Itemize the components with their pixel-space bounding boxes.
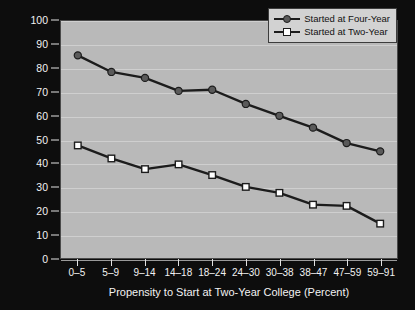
legend-item-two-year[interactable]: Started at Two-Year bbox=[274, 25, 390, 38]
y-tick-mark bbox=[51, 139, 59, 140]
y-tick-mark bbox=[51, 115, 59, 116]
data-point-marker-square[interactable] bbox=[142, 166, 149, 173]
series-line bbox=[78, 55, 380, 151]
x-tick-mark bbox=[381, 259, 382, 266]
y-tick-label: 10 bbox=[36, 230, 48, 241]
data-point-marker-square[interactable] bbox=[209, 172, 216, 179]
y-tick-label: 80 bbox=[36, 63, 48, 74]
data-point-marker-circle[interactable] bbox=[141, 74, 148, 81]
x-tick-mark bbox=[111, 259, 112, 266]
y-tick-mark bbox=[51, 20, 59, 21]
data-point-marker-square[interactable] bbox=[75, 142, 82, 149]
x-tick-label: 24–30 bbox=[232, 268, 260, 278]
data-point-marker-circle[interactable] bbox=[377, 148, 384, 155]
y-tick-label: 100 bbox=[30, 15, 48, 26]
y-tick-label: 50 bbox=[36, 134, 48, 145]
data-point-marker-circle[interactable] bbox=[276, 112, 283, 119]
data-point-marker-square[interactable] bbox=[276, 190, 283, 197]
y-tick-mark bbox=[51, 235, 59, 236]
data-point-marker-circle[interactable] bbox=[74, 52, 81, 59]
y-tick-mark bbox=[51, 43, 59, 44]
x-tick-mark bbox=[280, 259, 281, 266]
data-point-marker-square[interactable] bbox=[243, 184, 250, 191]
x-tick-mark bbox=[246, 259, 247, 266]
x-tick-label: 47–59 bbox=[333, 268, 361, 278]
legend: Started at Four-Year Started at Two-Year bbox=[268, 8, 397, 43]
series-line bbox=[78, 145, 380, 223]
y-tick-label: 20 bbox=[36, 206, 48, 217]
x-tick-label: 30–38 bbox=[266, 268, 294, 278]
y-tick-mark bbox=[51, 91, 59, 92]
data-point-marker-circle[interactable] bbox=[242, 100, 249, 107]
y-tick-mark bbox=[51, 67, 59, 68]
data-point-marker-square[interactable] bbox=[175, 161, 182, 168]
x-tick-mark bbox=[145, 259, 146, 266]
data-point-marker-circle[interactable] bbox=[108, 68, 115, 75]
y-tick-mark bbox=[51, 259, 59, 260]
y-tick-label: 60 bbox=[36, 110, 48, 121]
plot-area bbox=[60, 20, 398, 259]
x-tick-mark bbox=[178, 259, 179, 266]
y-tick-mark bbox=[51, 163, 59, 164]
x-tick-label: 9–14 bbox=[133, 268, 155, 278]
x-tick-label: 38–47 bbox=[300, 268, 328, 278]
data-point-marker-square[interactable] bbox=[310, 201, 317, 208]
x-tick-mark bbox=[212, 259, 213, 266]
x-tick-label: 0–5 bbox=[69, 268, 86, 278]
x-tick-mark bbox=[314, 259, 315, 266]
data-point-marker-square[interactable] bbox=[377, 220, 384, 227]
open-square-marker-icon bbox=[274, 26, 300, 37]
data-point-marker-circle[interactable] bbox=[175, 87, 182, 94]
y-axis: 0102030405060708090100 bbox=[0, 20, 60, 259]
legend-label-two-year: Started at Two-Year bbox=[304, 27, 387, 37]
legend-item-four-year[interactable]: Started at Four-Year bbox=[274, 12, 390, 25]
x-axis-title: Propensity to Start at Two-Year College … bbox=[60, 286, 398, 298]
y-tick-label: 70 bbox=[36, 86, 48, 97]
y-tick-mark bbox=[51, 211, 59, 212]
data-point-marker-circle[interactable] bbox=[209, 86, 216, 93]
x-tick-label: 18–24 bbox=[198, 268, 226, 278]
y-tick-label: 90 bbox=[36, 39, 48, 50]
x-tick-mark bbox=[77, 259, 78, 266]
x-tick-label: 14–18 bbox=[164, 268, 192, 278]
y-tick-label: 40 bbox=[36, 158, 48, 169]
y-tick-label: 0 bbox=[42, 254, 48, 265]
filled-circle-marker-icon bbox=[274, 13, 300, 24]
x-tick-mark bbox=[347, 259, 348, 266]
data-point-marker-circle[interactable] bbox=[309, 124, 316, 131]
chart-figure: Bachelor's Degree Attainment Rate (Perce… bbox=[0, 0, 415, 310]
data-point-marker-square[interactable] bbox=[108, 155, 115, 162]
x-axis: 0–55–99–1414–1818–2424–3030–3838–4747–59… bbox=[60, 259, 398, 310]
x-tick-label: 59–91 bbox=[367, 268, 395, 278]
data-point-marker-circle[interactable] bbox=[343, 139, 350, 146]
x-tick-label: 5–9 bbox=[102, 268, 119, 278]
data-point-marker-square[interactable] bbox=[343, 203, 350, 210]
series-layer bbox=[61, 21, 397, 258]
y-tick-label: 30 bbox=[36, 182, 48, 193]
y-tick-mark bbox=[51, 187, 59, 188]
legend-label-four-year: Started at Four-Year bbox=[304, 14, 390, 24]
